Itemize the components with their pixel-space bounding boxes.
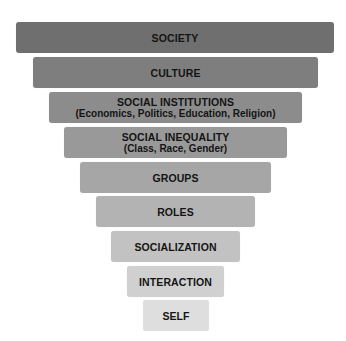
level-subtitle: (Class, Race, Gender) xyxy=(124,143,227,155)
level-culture: CULTURE xyxy=(33,57,318,88)
level-self: SELF xyxy=(143,300,209,331)
level-title: CULTURE xyxy=(150,67,200,79)
level-socialization: SOCIALIZATION xyxy=(111,231,240,262)
level-title: SOCIAL INEQUALITY xyxy=(122,131,230,143)
level-title: ROLES xyxy=(157,206,194,218)
level-society: SOCIETY xyxy=(16,22,334,53)
level-social-inequality: SOCIAL INEQUALITY (Class, Race, Gender) xyxy=(64,127,287,158)
level-title: SOCIAL INSTITUTIONS xyxy=(117,96,234,108)
inverted-pyramid-diagram: SOCIETY CULTURE SOCIAL INSTITUTIONS (Eco… xyxy=(0,0,346,341)
level-title: GROUPS xyxy=(152,172,198,184)
level-title: SELF xyxy=(162,310,189,322)
level-subtitle: (Economics, Politics, Education, Religio… xyxy=(75,108,275,120)
level-social-institutions: SOCIAL INSTITUTIONS (Economics, Politics… xyxy=(49,92,302,123)
level-title: INTERACTION xyxy=(139,276,212,288)
level-title: SOCIETY xyxy=(152,32,199,44)
level-roles: ROLES xyxy=(96,196,255,227)
level-groups: GROUPS xyxy=(80,162,271,193)
level-interaction: INTERACTION xyxy=(127,266,224,297)
level-title: SOCIALIZATION xyxy=(134,241,216,253)
